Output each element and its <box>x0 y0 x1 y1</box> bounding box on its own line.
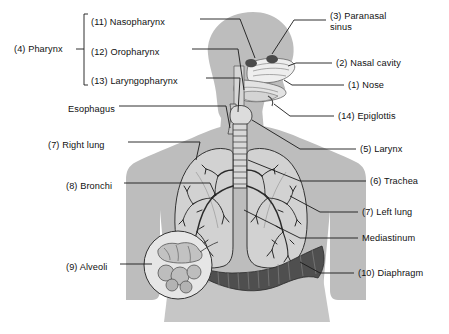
label-diaphragm: (10) Diaphragm <box>358 268 423 279</box>
label-left-lung: (7) Left lung <box>362 207 412 218</box>
label-nasopharynx: (11) Nasopharynx <box>91 17 165 28</box>
label-trachea: (6) Trachea <box>370 176 418 187</box>
respiratory-system-diagram: (4) Pharynx (11) Nasopharynx (12) Oropha… <box>0 0 449 334</box>
label-nasal-cavity: (2) Nasal cavity <box>336 58 401 69</box>
label-alveoli: (9) Alveoli <box>66 262 107 273</box>
label-nose: (1) Nose <box>348 80 384 91</box>
label-oropharynx: (12) Oropharynx <box>91 47 159 58</box>
label-mediastinum: Mediastinum <box>362 233 415 244</box>
label-laryngopharynx: (13) Laryngopharynx <box>91 76 178 87</box>
anatomy-illustration <box>0 0 449 334</box>
leader-esophagus <box>119 106 230 128</box>
label-epiglottis: (14) Epiglottis <box>338 111 396 122</box>
label-right-lung: (7) Right lung <box>48 140 105 151</box>
label-pharynx: (4) Pharynx <box>14 44 63 55</box>
label-esophagus: Esophagus <box>68 104 115 115</box>
label-paranasal-sinus: (3) Paranasal sinus <box>330 11 400 32</box>
leader-nose <box>284 80 344 85</box>
label-larynx: (5) Larynx <box>360 144 402 155</box>
leader-epiglottis <box>274 104 334 116</box>
pharynx-bracket <box>76 14 88 85</box>
trachea <box>233 124 247 188</box>
label-bronchi: (8) Bronchi <box>66 181 112 192</box>
